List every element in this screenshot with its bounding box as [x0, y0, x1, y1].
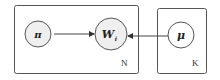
- graphical-model-diagram: N K π W i μ: [0, 0, 220, 80]
- plate-k-label: K: [192, 58, 199, 68]
- plate-n-label: N: [121, 58, 128, 68]
- node-w-label: W: [102, 28, 116, 41]
- node-mu-label: μ: [177, 29, 185, 42]
- node-pi-label: π: [33, 29, 42, 40]
